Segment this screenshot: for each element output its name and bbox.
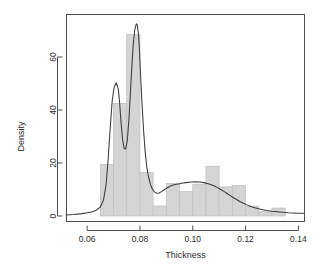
x-tick-label: 0.12 (237, 234, 254, 244)
y-axis: 0204060 (48, 52, 58, 218)
x-tick-label: 0.10 (184, 234, 201, 244)
density-plot-figure: 02040600.060.080.100.120.14ThicknessDens… (0, 0, 325, 272)
histogram-bar (153, 206, 166, 216)
histogram-bar (259, 212, 272, 216)
x-axis: 0.060.080.100.120.14 (79, 234, 307, 244)
histogram-bar (180, 192, 193, 216)
chart-canvas: 02040600.060.080.100.120.14ThicknessDens… (0, 0, 325, 272)
y-tick-label: 20 (48, 158, 58, 168)
x-tick-label: 0.14 (290, 234, 307, 244)
y-axis-title: Density (16, 121, 26, 152)
histogram-bar (193, 184, 206, 216)
x-axis-title: Thickness (165, 250, 206, 260)
histogram-bar (166, 183, 179, 216)
x-tick-label: 0.06 (79, 234, 96, 244)
y-tick-label: 40 (48, 105, 58, 115)
x-tick-label: 0.08 (132, 234, 149, 244)
histogram-bar (246, 206, 259, 216)
histogram-bar (140, 172, 153, 216)
y-tick-label: 60 (48, 52, 58, 62)
histogram-bar (114, 103, 127, 216)
histogram-bar (219, 187, 232, 216)
y-tick-label: 0 (48, 213, 58, 218)
histogram-bar (206, 166, 219, 216)
